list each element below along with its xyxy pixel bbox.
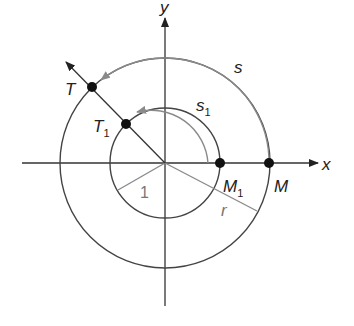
label-M1-main: M	[223, 177, 238, 196]
point-T1	[121, 119, 131, 129]
label-M1: M1	[223, 177, 243, 199]
label-T: T	[65, 80, 77, 99]
label-r-radius: r	[221, 201, 228, 220]
label-arc-s1: s1	[196, 96, 211, 118]
arc-s-arrow	[101, 58, 269, 163]
label-unit-radius: 1	[140, 184, 149, 201]
label-arc-s: s	[234, 58, 243, 77]
y-axis-label: y	[159, 0, 170, 17]
diagram-canvas: y x T T1 M M1 s s1 1 r	[0, 0, 354, 326]
x-axis-label: x	[321, 155, 331, 174]
ray-OT	[66, 62, 165, 163]
point-M	[264, 158, 274, 168]
point-M1	[215, 158, 225, 168]
label-T1-subscript: 1	[103, 127, 109, 139]
point-T	[87, 82, 97, 92]
label-T1: T1	[93, 117, 110, 139]
label-M1-subscript: 1	[237, 187, 243, 199]
label-M: M	[274, 177, 289, 196]
label-arc-s1-subscript: 1	[205, 106, 211, 118]
